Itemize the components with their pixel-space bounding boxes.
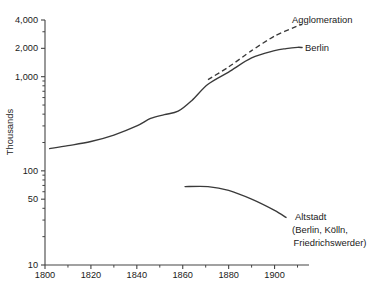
y-tick-label-100: 100 (23, 166, 38, 176)
x-tick-label-1860: 1860 (173, 270, 193, 280)
annotation-altstadt-line1: Altstadt (295, 211, 327, 222)
annotation-agglomeration: Agglomeration (292, 14, 352, 25)
x-tick-label-1820: 1820 (81, 270, 101, 280)
x-tick-label-1900: 1900 (264, 270, 284, 280)
x-tick-label-1800: 1800 (35, 270, 55, 280)
chart-plot-area: 4,000 2,000 1,000 100 50 10 1800 1820 18… (0, 0, 376, 299)
x-tick-label-1880: 1880 (218, 270, 238, 280)
annotation-berlin: Berlin (305, 42, 329, 53)
y-tick-label-2000: 2,000 (15, 43, 38, 53)
y-tick-label-10: 10 (28, 260, 38, 270)
y-tick-label-1000: 1,000 (15, 72, 38, 82)
series-line-berlin (50, 47, 303, 148)
annotation-altstadt-line3: Friedrichswerder) (294, 237, 367, 248)
x-axis-ticks (45, 265, 298, 269)
y-axis-title: Thousands (4, 108, 15, 155)
annotation-altstadt-line2: (Berlin, Kölln, (292, 224, 348, 235)
y-axis-ticks (41, 20, 45, 265)
chart-figure: 4,000 2,000 1,000 100 50 10 1800 1820 18… (0, 0, 376, 299)
y-tick-label-50: 50 (28, 194, 38, 204)
y-tick-label-4000: 4,000 (15, 15, 38, 25)
series-line-agglomeration (208, 25, 302, 80)
x-tick-label-1840: 1840 (127, 270, 147, 280)
series-line-altstadt (185, 186, 286, 217)
